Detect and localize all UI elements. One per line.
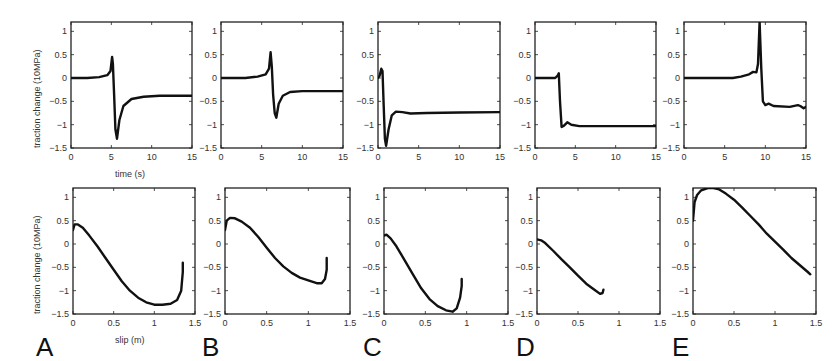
y-tick-label: −1 (523, 286, 533, 296)
x-tick-label: 0.5 (419, 318, 432, 328)
y-tick-label: 0 (64, 239, 69, 249)
x-tick-label: 1.5 (189, 318, 202, 328)
x-tick-label: 0.5 (572, 318, 585, 328)
y-tick-label: −1.5 (203, 309, 221, 319)
y-tick-label: 1 (528, 192, 533, 202)
y-tick-label: 1 (369, 26, 374, 36)
axes-box (225, 188, 350, 314)
y-tick-label: 0.5 (520, 216, 533, 226)
x-tick-label: 1 (464, 318, 469, 328)
x-tick-label: 1 (152, 318, 157, 328)
y-tick-label: 0 (62, 73, 67, 83)
y-tick-label: −1 (57, 120, 67, 130)
x-tick-label: 5 (416, 152, 421, 162)
y-tick-label: −1.5 (356, 143, 374, 153)
y-tick-label: −1 (679, 286, 689, 296)
panel-a-top: 051015−1.5−1−0.500.51 (49, 22, 197, 162)
data-line (221, 52, 343, 117)
y-tick-label: 0 (675, 73, 680, 83)
y-tick-label: 0.5 (204, 50, 217, 60)
x-tick-label: 10 (147, 152, 157, 162)
axes-box (71, 22, 192, 148)
y-tick-label: 0 (216, 239, 221, 249)
y-tick-label: −0.5 (662, 96, 680, 106)
y-tick-label: 1 (375, 192, 380, 202)
axes-box (693, 188, 816, 314)
y-tick-label: 0.5 (208, 216, 221, 226)
x-tick-label: 10 (454, 152, 464, 162)
x-tick-label: 1.5 (502, 318, 515, 328)
y-tick-label: 0 (526, 73, 531, 83)
axes-box (384, 188, 508, 314)
panel-d-top: 051015−1.5−1−0.500.51 (513, 22, 661, 162)
data-line (693, 188, 810, 274)
y-tick-label: −1.5 (513, 143, 531, 153)
x-tick-label: 1.5 (654, 318, 667, 328)
y-tick-label: 1 (64, 192, 69, 202)
y-tick-label: 0 (375, 239, 380, 249)
y-tick-label: −1.5 (515, 309, 533, 319)
y-tick-label: −0.5 (199, 96, 217, 106)
x-tick-label: 1 (772, 318, 777, 328)
y-tick-label: 0 (528, 239, 533, 249)
data-line (535, 73, 656, 127)
y-tick-label: −1.5 (49, 143, 67, 153)
y-tick-label: −0.5 (513, 96, 531, 106)
axes-box (537, 188, 660, 314)
x-tick-label: 0 (222, 318, 227, 328)
x-tick-label: 15 (801, 152, 811, 162)
y-tick-label: 0.5 (676, 216, 689, 226)
y-tick-label: 0.5 (518, 50, 531, 60)
axes-box (221, 22, 343, 148)
x-tick-label: 15 (495, 152, 505, 162)
x-tick-label: 0 (70, 318, 75, 328)
x-tick-label: 5 (109, 152, 114, 162)
data-line (384, 235, 462, 312)
y-tick-label: −0.5 (362, 262, 380, 272)
data-line (225, 218, 327, 283)
y-tick-label: −1 (670, 120, 680, 130)
y-tick-label: 0.5 (54, 50, 67, 60)
x-tick-label: 0.5 (728, 318, 741, 328)
y-tick-label: 1 (684, 192, 689, 202)
x-tick-label: 15 (651, 152, 661, 162)
y-tick-label: 0.5 (361, 50, 374, 60)
y-tick-label: 1 (62, 26, 67, 36)
data-line (71, 57, 192, 139)
axes-box (684, 22, 806, 148)
y-tick-label: −1 (521, 120, 531, 130)
y-tick-label: 1 (675, 26, 680, 36)
figure: 051015−1.5−1−0.500.51051015−1.5−1−0.500.… (0, 0, 837, 361)
axes-box (535, 22, 656, 148)
x-tick-label: 0 (681, 152, 686, 162)
x-tick-label: 10 (760, 152, 770, 162)
panel-c-top: 051015−1.5−1−0.500.51 (356, 22, 505, 162)
y-tick-label: −0.5 (49, 96, 67, 106)
y-tick-label: 0 (369, 73, 374, 83)
x-tick-label: 0 (381, 318, 386, 328)
data-line (537, 239, 603, 294)
x-tick-label: 0 (532, 152, 537, 162)
x-tick-label: 15 (187, 152, 197, 162)
x-tick-label: 1.5 (810, 318, 823, 328)
y-tick-label: −1 (370, 286, 380, 296)
x-tick-label: 0 (690, 318, 695, 328)
y-tick-label: 0.5 (56, 216, 69, 226)
data-line (378, 69, 500, 146)
x-tick-label: 5 (259, 152, 264, 162)
axes-box (378, 22, 500, 148)
y-tick-label: 1 (212, 26, 217, 36)
y-tick-label: −0.5 (671, 262, 689, 272)
y-tick-label: −1.5 (671, 309, 689, 319)
x-tick-label: 5 (573, 152, 578, 162)
y-tick-label: −1 (211, 286, 221, 296)
x-tick-label: 1.5 (344, 318, 357, 328)
y-tick-label: −1 (364, 120, 374, 130)
x-tick-label: 10 (611, 152, 621, 162)
y-tick-label: −1 (207, 120, 217, 130)
y-tick-label: −0.5 (203, 262, 221, 272)
y-tick-label: 0.5 (367, 216, 380, 226)
x-tick-label: 0 (68, 152, 73, 162)
data-line (684, 22, 806, 108)
y-tick-label: 0 (212, 73, 217, 83)
